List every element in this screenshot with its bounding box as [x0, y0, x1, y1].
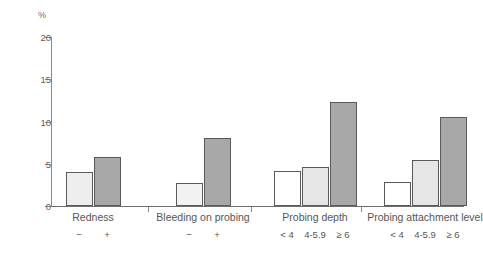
y-axis-tick-label: 0 [25, 201, 51, 212]
y-axis-tick-label: 20 [25, 32, 51, 43]
y-axis-tick: 15 [0, 79, 51, 80]
bar-tick-label: 4-5.9 [414, 229, 436, 240]
bar-tick-label: ≥ 6 [446, 229, 459, 240]
y-axis-tick: 0 [0, 206, 51, 207]
bar [412, 160, 439, 206]
bar-tick-label: 4-5.9 [304, 229, 326, 240]
group-label: Probing depth [282, 211, 347, 223]
bar-tick-label: − [186, 229, 192, 240]
bar-tick-label: + [104, 229, 110, 240]
bar-tick-label: < 4 [390, 229, 403, 240]
bar [176, 183, 203, 206]
x-axis-separator-tick [251, 207, 252, 212]
bar [274, 171, 301, 206]
bar-tick-label: − [76, 229, 82, 240]
bar [330, 102, 357, 206]
y-axis-unit-label: % [38, 10, 46, 20]
group-label: Probing attachment level [367, 211, 483, 223]
bar [384, 182, 411, 207]
group-label: Bleeding on probing [156, 211, 249, 223]
bar [66, 172, 93, 206]
bar-tick-label: + [214, 229, 220, 240]
bar [440, 117, 467, 206]
y-axis-tick: 20 [0, 37, 51, 38]
group-label: Redness [72, 211, 113, 223]
plot-area [52, 37, 464, 206]
bar [204, 138, 231, 206]
bar-tick-label: < 4 [280, 229, 293, 240]
y-axis-tick-label: 5 [25, 158, 51, 169]
bar [94, 157, 121, 206]
x-axis-separator-tick [361, 207, 362, 212]
y-axis-tick-label: 15 [25, 74, 51, 85]
y-axis-tick: 10 [0, 122, 51, 123]
y-axis-tick-label: 10 [25, 116, 51, 127]
x-axis-separator-tick [148, 207, 149, 212]
bar [302, 167, 329, 206]
x-axis-line [51, 206, 464, 207]
bar-tick-label: ≥ 6 [336, 229, 349, 240]
y-axis-tick: 5 [0, 164, 51, 165]
